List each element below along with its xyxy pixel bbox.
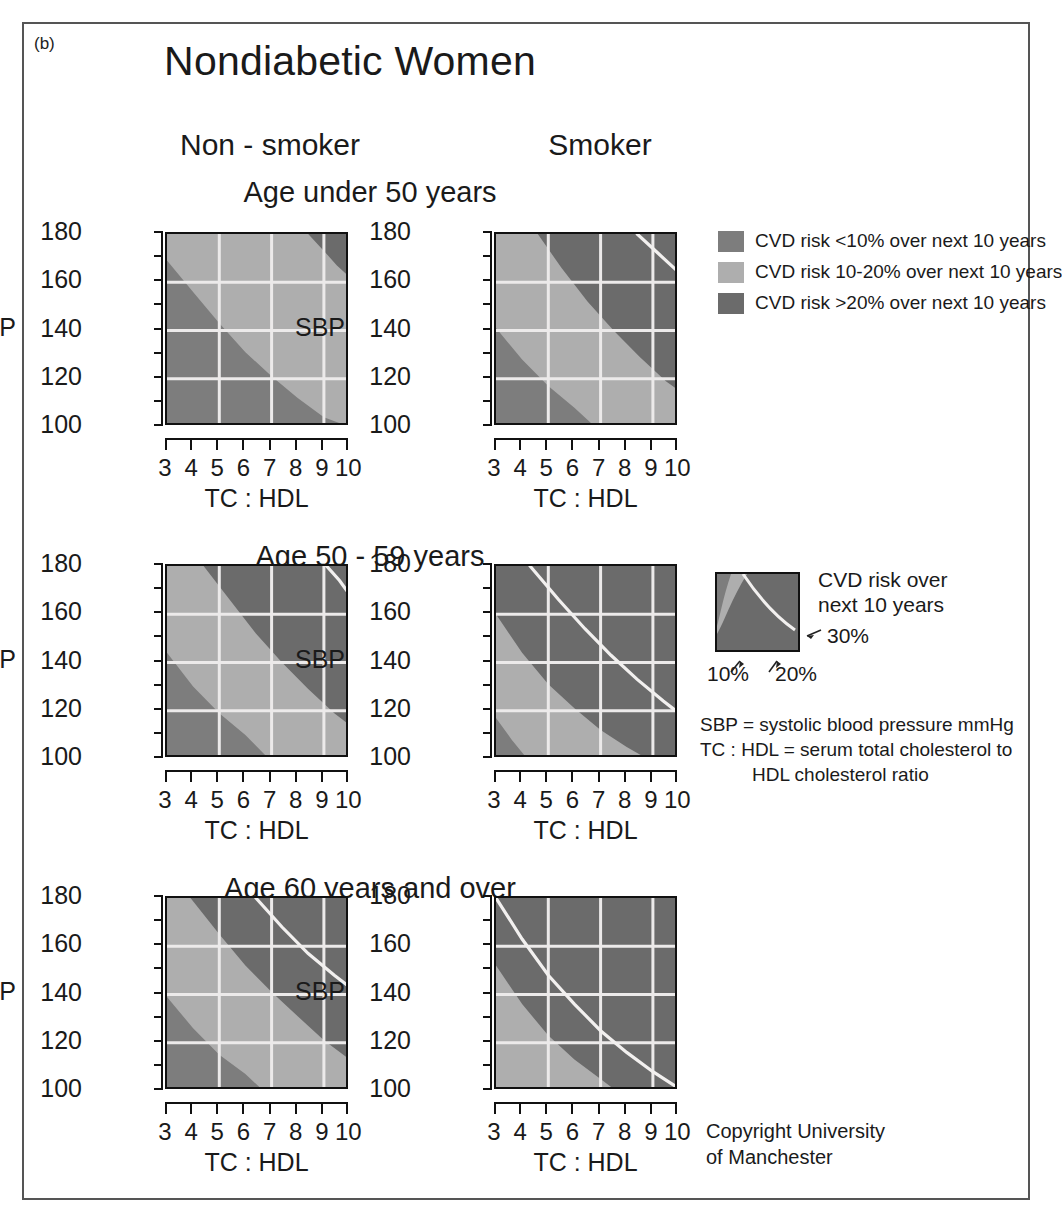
x-tick-label: 6 <box>230 1118 256 1146</box>
x-tick-label: 10 <box>664 1118 690 1146</box>
x-tick-label: 5 <box>533 454 559 482</box>
y-tick-label: 140 <box>351 314 411 343</box>
plot-area <box>494 232 677 425</box>
x-tick <box>295 770 297 782</box>
inset-label-20: 20% <box>775 662 817 686</box>
x-tick <box>165 770 167 782</box>
y-tick <box>483 1064 492 1066</box>
inset-caption-line1: CVD risk over <box>818 568 948 593</box>
page-title: Nondiabetic Women <box>0 38 700 85</box>
y-tick-label: 100 <box>351 1074 411 1103</box>
inset-label-10: 10% <box>707 662 749 686</box>
y-axis <box>477 890 492 1095</box>
x-tick <box>494 438 496 450</box>
y-tick-label: 140 <box>22 314 82 343</box>
y-tick-label: 100 <box>22 1074 82 1103</box>
x-tick-label: 10 <box>335 1118 361 1146</box>
x-tick <box>321 1102 323 1114</box>
y-tick <box>483 756 492 758</box>
x-tick <box>242 438 244 450</box>
copyright-line1: Copyright University <box>706 1118 885 1144</box>
y-tick-label: 140 <box>351 646 411 675</box>
y-tick <box>154 919 163 921</box>
x-tick-label: 10 <box>335 454 361 482</box>
y-tick <box>483 611 492 613</box>
x-tick <box>165 1102 167 1114</box>
y-tick <box>483 732 492 734</box>
x-tick-label: 7 <box>586 786 612 814</box>
y-tick <box>154 732 163 734</box>
risk-surface <box>496 566 677 757</box>
x-tick <box>624 438 626 450</box>
y-tick <box>154 992 163 994</box>
x-tick <box>519 1102 521 1114</box>
y-tick <box>154 756 163 758</box>
x-tick <box>216 770 218 782</box>
y-tick <box>483 992 492 994</box>
x-tick <box>190 438 192 450</box>
y-tick-label: 100 <box>351 410 411 439</box>
copyright-line2: of Manchester <box>706 1144 885 1170</box>
x-tick-label: 3 <box>481 786 507 814</box>
y-tick <box>483 303 492 305</box>
y-tick <box>154 303 163 305</box>
y-tick-label: 160 <box>22 265 82 294</box>
y-tick <box>483 279 492 281</box>
x-tick-label: 6 <box>230 786 256 814</box>
x-tick <box>571 438 573 450</box>
risk-legend: CVD risk <10% over next 10 years CVD ris… <box>718 230 1062 323</box>
y-tick <box>154 376 163 378</box>
y-tick <box>483 967 492 969</box>
x-tick <box>545 1102 547 1114</box>
y-tick-label: 120 <box>22 694 82 723</box>
x-tick-label: 4 <box>507 786 533 814</box>
x-axis <box>494 438 677 452</box>
x-axis-title: TC : HDL <box>494 484 677 513</box>
y-tick <box>483 563 492 565</box>
x-tick-label: 8 <box>283 1118 309 1146</box>
y-tick-label: 180 <box>351 217 411 246</box>
y-tick-label: 160 <box>351 597 411 626</box>
y-tick <box>154 611 163 613</box>
x-tick-label: 9 <box>309 1118 335 1146</box>
y-axis-title: SBP <box>295 313 345 342</box>
y-tick-label: 140 <box>22 646 82 675</box>
y-tick <box>483 328 492 330</box>
x-tick <box>295 438 297 450</box>
y-tick <box>483 376 492 378</box>
definition-sbp: SBP = systolic blood pressure mmHg <box>700 712 1014 737</box>
y-tick <box>483 635 492 637</box>
y-tick-label: 160 <box>22 597 82 626</box>
x-tick-label: 8 <box>612 454 638 482</box>
y-tick-label: 140 <box>22 978 82 1007</box>
y-tick <box>154 231 163 233</box>
x-tick <box>624 770 626 782</box>
y-tick <box>483 708 492 710</box>
legend-label-mid: CVD risk 10-20% over next 10 years <box>755 261 1062 283</box>
x-tick <box>675 1102 677 1114</box>
y-tick <box>483 400 492 402</box>
y-tick <box>483 660 492 662</box>
y-axis-title: SBP <box>0 313 16 342</box>
x-tick <box>650 438 652 450</box>
x-tick-label: 3 <box>481 454 507 482</box>
y-tick <box>483 587 492 589</box>
y-tick <box>483 1016 492 1018</box>
y-tick <box>154 587 163 589</box>
x-axis-title: TC : HDL <box>494 816 677 845</box>
x-tick-label: 4 <box>178 786 204 814</box>
y-tick <box>154 943 163 945</box>
x-tick <box>269 770 271 782</box>
x-tick-label: 7 <box>257 1118 283 1146</box>
x-tick-label: 6 <box>559 454 585 482</box>
y-tick-label: 120 <box>351 694 411 723</box>
x-tick-label: 9 <box>309 454 335 482</box>
x-axis <box>494 1102 677 1116</box>
x-tick-label: 5 <box>204 454 230 482</box>
x-tick <box>190 1102 192 1114</box>
x-tick-label: 4 <box>178 1118 204 1146</box>
y-tick-label: 180 <box>351 881 411 910</box>
y-tick <box>483 1040 492 1042</box>
y-axis-title: SBP <box>295 645 345 674</box>
x-tick-label: 3 <box>152 786 178 814</box>
